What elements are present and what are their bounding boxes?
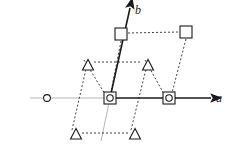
origin-node-circle: [107, 95, 113, 101]
lattice-diagram-svg: a b: [0, 0, 234, 156]
b-axis-vector: [110, 8, 130, 98]
dash-right-column-upper: [172, 39, 186, 93]
dash-mid-column-lower: [131, 69, 146, 130]
lattice-node-a1-circle: [166, 95, 172, 101]
circle-node-left-circle: [44, 95, 51, 102]
triangle-node-lower-right-triangle: [130, 129, 141, 140]
circle-node-left: [44, 95, 51, 102]
square-node-upper-right: [180, 26, 192, 38]
square-node-upper-left-square: [115, 28, 127, 40]
dashed-lattice-lines: [72, 32, 186, 133]
b-axis-label: b: [135, 3, 141, 17]
origin-node: [104, 92, 116, 104]
triangle-node-lower-right: [130, 129, 141, 140]
lattice-figure: a b: [0, 0, 234, 156]
a-axis-label: a: [216, 91, 222, 105]
lattice-markers: [44, 26, 192, 139]
triangle-node-lower-left-triangle: [71, 129, 82, 140]
axis-vectors: [110, 8, 211, 98]
square-node-upper-right-square: [180, 26, 192, 38]
triangle-node-lower-left: [71, 129, 82, 140]
dash-top-row: [128, 32, 179, 33]
dash-left-column-lower: [72, 69, 86, 130]
triangle-node-upper-right-triangle: [143, 60, 154, 71]
lattice-node-a1: [163, 92, 175, 104]
triangle-node-upper-right: [143, 60, 154, 71]
axis-extensions: [30, 98, 110, 141]
square-node-upper-left: [115, 28, 127, 40]
